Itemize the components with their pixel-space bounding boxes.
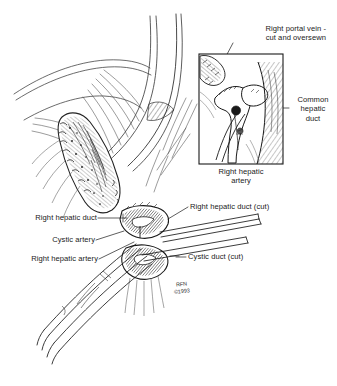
- label-cystic-artery: Cystic artery: [0, 235, 95, 244]
- leader-cystic-artery: [96, 231, 124, 240]
- leader-right-hepatic-duct-cut: [168, 207, 188, 219]
- surgical-illustration-figure: Right portal vein - cut and oversewn Com…: [0, 0, 337, 386]
- label-right-hepatic-artery-inset-line1: Right hepatic: [219, 167, 264, 176]
- label-right-hepatic-duct-cut: Right hepatic duct (cut): [190, 202, 269, 211]
- resected-duct-specimen: [32, 113, 120, 218]
- label-right-portal-vein: Right portal vein - cut and oversewn: [208, 24, 326, 43]
- label-cystic-duct-cut: Cystic duct (cut): [188, 252, 243, 261]
- label-common-hepatic-duct-line3: duct: [306, 114, 321, 123]
- label-right-portal-vein-line1: Right portal vein -: [266, 24, 326, 33]
- label-right-portal-vein-line2: cut and oversewn: [266, 33, 326, 42]
- cystic-duct-stump-lower: [122, 245, 168, 316]
- hepatic-duct-stump-upper: [120, 202, 169, 238]
- label-common-hepatic-duct-line2: hepatic: [301, 104, 326, 113]
- inset-panel: [199, 54, 283, 164]
- illustration-canvas: [0, 0, 337, 386]
- label-right-hepatic-artery-inset: Right hepatic artery: [196, 167, 286, 186]
- label-common-hepatic-duct-line1: Common: [297, 95, 328, 104]
- vessel-mid-shading: [147, 102, 174, 121]
- lower-strands: [125, 276, 164, 316]
- label-right-hepatic-artery: Right hepatic artery: [0, 254, 98, 263]
- label-right-hepatic-artery-inset-line2: artery: [231, 176, 251, 185]
- label-right-hepatic-duct: Right hepatic duct: [0, 213, 97, 222]
- liver-edge-contour: [14, 60, 151, 120]
- label-common-hepatic-duct: Common hepatic duct: [291, 95, 335, 123]
